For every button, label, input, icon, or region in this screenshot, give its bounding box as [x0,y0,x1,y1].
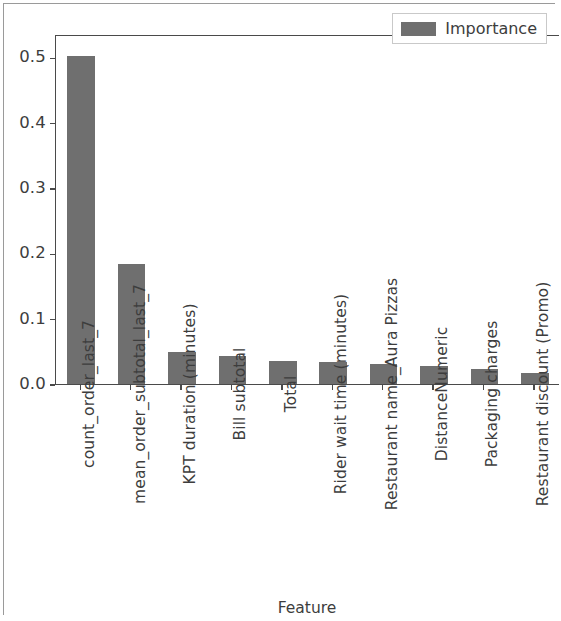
x-axis: count_order_last_7mean_order_subtotal_la… [55,385,559,605]
figure-frame: 0.00.10.20.30.40.5 count_order_last_7mea… [3,3,555,615]
y-tick-label: 0.4 [19,113,46,132]
x-tick-label: Bill subtotal [231,348,249,441]
legend-swatch-importance [401,22,436,36]
legend-label-importance: Importance [445,19,537,38]
x-tick-label: mean_order_subtotal_last_7 [131,284,149,504]
x-tick-label: KPT duration (minutes) [181,303,199,484]
x-tick-label: Restaurant discount (Promo) [534,282,552,507]
x-tick-label: Restaurant name_Aura Pizzas [383,278,401,511]
y-axis: 0.00.10.20.30.40.5 [4,35,55,385]
y-tick-label: 0.5 [19,47,46,66]
x-tick-label: Packaging charges [483,321,501,468]
x-tick-label: count_order_last_7 [80,320,98,468]
chart-legend: Importance [392,13,547,44]
x-tick-label: DistanceNumeric [433,327,451,462]
y-tick-label: 0.1 [19,309,46,328]
y-tick-label: 0.2 [19,243,46,262]
y-tick-label: 0.0 [19,374,46,393]
x-tick-label: Rider wait time (minutes) [332,294,350,495]
y-tick-label: 0.3 [19,178,46,197]
x-tick-label: Total [282,376,300,413]
x-axis-label: Feature [55,599,559,617]
